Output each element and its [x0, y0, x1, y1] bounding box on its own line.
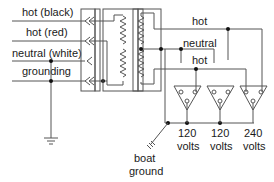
voltage-1-value: 120: [178, 127, 196, 139]
voltage-1-unit: volts: [177, 140, 200, 152]
boat-ground-line1: boat: [134, 152, 155, 164]
label-neutral-white: neutral (white): [12, 47, 82, 59]
label-hot-top: hot: [192, 15, 207, 27]
label-hot-bottom: hot: [192, 54, 207, 66]
boat-ground-line2: ground: [129, 165, 163, 177]
wiring-diagram: hot (black) hot (red) neutral (white) gr…: [0, 0, 274, 182]
outlet-120v-2: [207, 86, 234, 123]
outlet-240v: [240, 86, 267, 123]
label-hot-red: hot (red): [26, 26, 68, 38]
voltage-2-unit: volts: [210, 140, 233, 152]
voltage-2-value: 120: [211, 127, 229, 139]
connector-leads: [90, 21, 114, 83]
label-hot-black: hot (black): [22, 6, 73, 18]
voltage-3-value: 240: [244, 127, 262, 139]
input-wires: [12, 21, 85, 138]
voltage-3-unit: volts: [243, 140, 266, 152]
outlet-120v-1: [174, 86, 201, 123]
boat-ground-icon: [147, 123, 168, 149]
label-neutral: neutral: [183, 37, 217, 49]
label-grounding: grounding: [22, 65, 71, 77]
earth-ground-icon: [44, 138, 58, 144]
